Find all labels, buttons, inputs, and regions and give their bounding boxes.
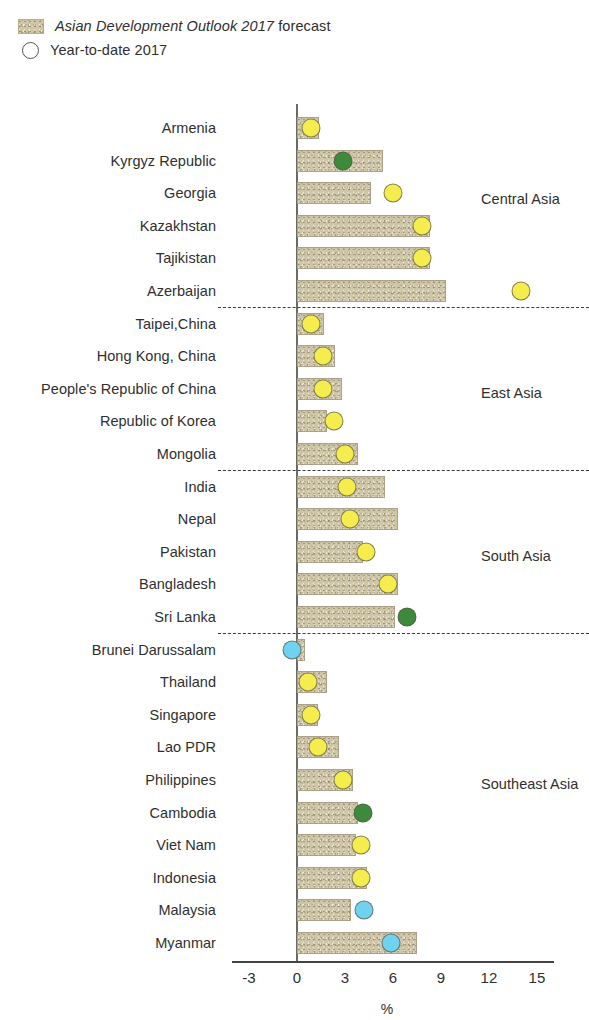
ytd-data-point: [302, 705, 321, 724]
category-label: Tajikistan: [156, 250, 216, 266]
ytd-data-point: [302, 119, 321, 138]
ytd-data-point: [512, 282, 531, 301]
category-label: Kazakhstan: [140, 218, 216, 234]
category-label: Armenia: [162, 120, 216, 136]
ytd-data-point: [336, 445, 355, 464]
ytd-data-point: [356, 542, 375, 561]
x-axis-tick-label: 9: [437, 969, 446, 986]
forecast-bar: [297, 899, 351, 921]
ytd-data-point: [355, 901, 374, 920]
ytd-data-point: [412, 249, 431, 268]
region-label: Central Asia: [481, 191, 560, 207]
category-label: Hong Kong, China: [97, 348, 216, 364]
ytd-data-point: [313, 347, 332, 366]
category-label: Myanmar: [155, 935, 216, 951]
ytd-data-point: [308, 738, 327, 757]
x-axis-tick-label: 0: [293, 969, 302, 986]
ytd-data-point: [334, 151, 353, 170]
ytd-data-point: [352, 868, 371, 887]
x-axis-tick-label: 6: [389, 969, 398, 986]
category-label: People's Republic of China: [41, 381, 216, 397]
x-axis-tick-label: 12: [480, 969, 497, 986]
forecast-bar: [297, 215, 430, 237]
category-label: Malaysia: [158, 902, 216, 918]
region-separator: [218, 633, 589, 634]
ytd-data-point: [313, 379, 332, 398]
category-label: Nepal: [178, 511, 216, 527]
category-label: Brunei Darussalam: [92, 642, 216, 658]
region-label: South Asia: [481, 548, 551, 564]
category-label: Azerbaijan: [147, 283, 216, 299]
ytd-data-point: [353, 803, 372, 822]
region-label: East Asia: [481, 385, 542, 401]
chart-plot-area: ArmeniaKyrgyz RepublicGeorgiaKazakhstanT…: [0, 0, 589, 1020]
ytd-data-point: [412, 216, 431, 235]
ytd-data-point: [324, 412, 343, 431]
ytd-data-point: [384, 184, 403, 203]
x-axis-tick-label: 3: [341, 969, 350, 986]
ytd-data-point: [283, 640, 302, 659]
category-label: Lao PDR: [157, 739, 216, 755]
region-separator: [218, 307, 589, 308]
ytd-data-point: [379, 575, 398, 594]
x-axis-line: [232, 961, 554, 963]
category-label: Kyrgyz Republic: [110, 153, 216, 169]
category-label: Indonesia: [153, 870, 216, 886]
category-label: India: [184, 479, 216, 495]
category-label: Republic of Korea: [100, 413, 216, 429]
forecast-bar: [297, 541, 363, 563]
ytd-data-point: [352, 836, 371, 855]
forecast-bar: [297, 410, 327, 432]
category-label: Mongolia: [157, 446, 216, 462]
x-axis-tick-label: 15: [528, 969, 545, 986]
x-axis-tick-label: -3: [242, 969, 256, 986]
forecast-bar: [297, 802, 358, 824]
category-label: Thailand: [160, 674, 216, 690]
ytd-data-point: [382, 934, 401, 953]
ytd-data-point: [337, 477, 356, 496]
category-label: Viet Nam: [156, 837, 216, 853]
ytd-data-point: [299, 673, 318, 692]
forecast-bar: [297, 182, 371, 204]
category-label: Singapore: [149, 707, 216, 723]
category-label: Taipei,China: [136, 316, 216, 332]
region-label: Southeast Asia: [481, 776, 578, 792]
forecast-bar: [297, 606, 395, 628]
category-label: Cambodia: [150, 805, 217, 821]
forecast-bar: [297, 247, 430, 269]
category-label: Pakistan: [160, 544, 216, 560]
category-label: Sri Lanka: [154, 609, 216, 625]
ytd-data-point: [302, 314, 321, 333]
x-axis-title: %: [381, 1001, 393, 1017]
ytd-data-point: [340, 510, 359, 529]
forecast-bar: [297, 834, 356, 856]
forecast-bar: [297, 280, 446, 302]
category-label: Philippines: [145, 772, 216, 788]
category-label: Bangladesh: [139, 576, 216, 592]
ytd-data-point: [398, 608, 417, 627]
category-label: Georgia: [164, 185, 216, 201]
ytd-data-point: [334, 771, 353, 790]
region-separator: [218, 470, 589, 471]
